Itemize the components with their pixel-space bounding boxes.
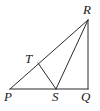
vertex-label-r: R bbox=[83, 3, 91, 16]
geometry-figure: P S Q T R bbox=[0, 0, 100, 111]
vertex-label-s: S bbox=[52, 90, 59, 103]
vertex-label-t: T bbox=[25, 52, 32, 65]
vertex-label-q: Q bbox=[81, 90, 90, 103]
vertex-label-p: P bbox=[4, 90, 12, 103]
segment-ts bbox=[38, 63, 56, 89]
segment-sr bbox=[56, 20, 88, 89]
